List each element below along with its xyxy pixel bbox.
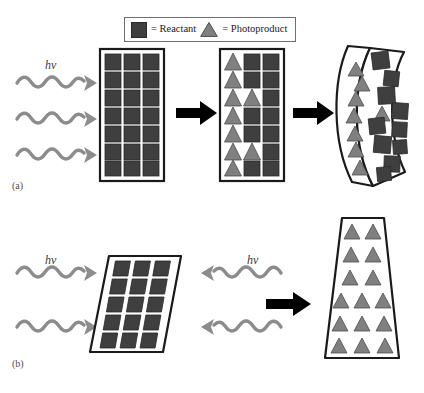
panel-a-label: (a): [12, 180, 23, 191]
panel-a-light-waves: [14, 60, 104, 165]
panel-a-process-arrow-2: [293, 100, 335, 126]
panel-b-process-arrow: [266, 291, 312, 317]
panel-b-hv-label-right: hv: [247, 253, 258, 268]
panel-a-partially-reacted-crystal: [219, 48, 285, 182]
panel-b-slanted-crystal: [88, 252, 188, 357]
photomechanical-crystal-figure: = Reactant = Photoproduct hv: [0, 0, 424, 393]
panel-b-label: (b): [12, 358, 24, 369]
panel-a-hv-label: hv: [45, 58, 56, 73]
panel-a-bent-crystal: [330, 38, 418, 190]
panel-a-process-arrow-1: [176, 100, 218, 126]
panel-b: hv: [0, 200, 424, 393]
panel-a: hv: [0, 0, 424, 200]
panel-a-pristine-crystal: [99, 48, 165, 182]
panel-b-reacted-trapezoid-crystal: [316, 214, 412, 362]
panel-b-hv-label-left: hv: [45, 253, 56, 268]
